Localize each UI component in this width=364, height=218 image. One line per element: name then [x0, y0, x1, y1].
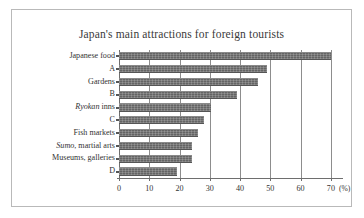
bar-row [119, 50, 343, 63]
bar-10 [119, 167, 177, 175]
bar-7 [119, 129, 198, 137]
tick-mark-50 [270, 178, 271, 181]
x-tick-label-10: 10 [145, 184, 153, 193]
x-tick-label-50: 50 [266, 184, 274, 193]
tick-mark-40 [240, 178, 241, 181]
page-title: Japan's main attractions for foreign tou… [12, 28, 351, 40]
bar-9 [119, 155, 192, 163]
y-axis-label-8: Sumo, martial arts [56, 140, 115, 153]
tick-mark-30 [210, 178, 211, 181]
bar-row [119, 165, 343, 178]
bar-3 [119, 78, 258, 86]
bar-row [119, 101, 343, 114]
bar-row [119, 140, 343, 153]
x-tick-label-20: 20 [175, 184, 183, 193]
y-axis-label-2: A [109, 63, 115, 76]
y-axis-label-9: Museums, galleries [52, 152, 115, 165]
y-axis-label-5: Ryokan inns [75, 101, 115, 114]
y-axis-category-labels: Japanese foodAGardensBRyokan innsCFish m… [26, 50, 117, 178]
y-axis-label-10: D [109, 165, 115, 178]
bar-6 [119, 116, 204, 124]
bar-row [119, 88, 343, 101]
bar-4 [119, 91, 237, 99]
bar-8 [119, 142, 192, 150]
y-axis-label-7: Fish markets [73, 127, 115, 140]
bar-1 [119, 52, 331, 60]
bar-row [119, 76, 343, 89]
bar-row [119, 114, 343, 127]
x-axis-unit-label: (%) [339, 184, 350, 193]
y-axis-label-6: C [110, 114, 115, 127]
x-tick-label-60: 60 [297, 184, 305, 193]
plot-area [119, 50, 343, 178]
y-axis-label-1: Japanese food [69, 50, 115, 63]
tick-mark-60 [301, 178, 302, 181]
x-axis-line [117, 178, 343, 179]
bar-2 [119, 65, 267, 73]
x-tick-label-70: 70 [327, 184, 335, 193]
tick-mark-10 [149, 178, 150, 181]
x-tick-label-30: 30 [206, 184, 214, 193]
x-axis-tick-labels: 010203040506070(%) [119, 184, 359, 198]
bar-row [119, 127, 343, 140]
tick-mark-0 [119, 178, 120, 181]
tick-mark-20 [180, 178, 181, 181]
x-tick-label-0: 0 [117, 184, 121, 193]
bar-5 [119, 103, 211, 111]
y-axis-label-3: Gardens [88, 76, 115, 89]
bar-row [119, 152, 343, 165]
figure-frame: Japan's main attractions for foreign tou… [11, 9, 352, 207]
y-axis-label-4: B [110, 88, 115, 101]
x-tick-label-40: 40 [236, 184, 244, 193]
bar-row [119, 63, 343, 76]
tick-mark-70 [331, 178, 332, 181]
